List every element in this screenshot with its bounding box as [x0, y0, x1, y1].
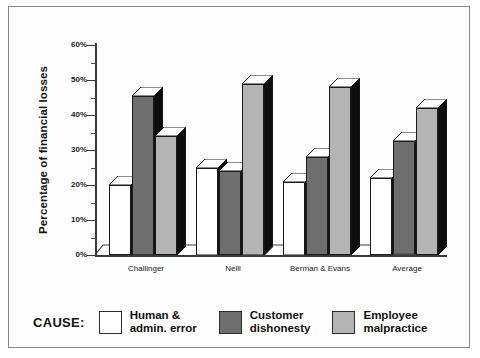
chart-page: Percentage of financial losses 0%10%20%3…	[0, 0, 480, 358]
bar	[242, 75, 273, 256]
legend-swatch	[99, 311, 122, 334]
legend-swatch	[332, 311, 355, 334]
legend-item: Customer dishonesty	[219, 309, 311, 335]
y-axis-minor-tick	[91, 133, 95, 134]
legend-title: CAUSE:	[33, 315, 85, 330]
y-axis-line	[95, 43, 97, 257]
bar	[329, 78, 360, 255]
bar	[416, 99, 447, 255]
chart-frame: Percentage of financial losses 0%10%20%3…	[8, 6, 470, 348]
plot-area: Percentage of financial losses 0%10%20%3…	[95, 43, 447, 257]
y-axis-tick-label: 50%	[43, 76, 87, 84]
x-axis-category-label: Average	[356, 265, 458, 273]
y-axis-tick-label: 60%	[43, 41, 87, 49]
legend-item: Human & admin. error	[99, 309, 197, 335]
y-axis-minor-tick	[91, 238, 95, 239]
y-axis-tick-label: 40%	[43, 111, 87, 119]
y-axis-tick	[87, 115, 95, 116]
legend-label: Employee malpractice	[363, 309, 427, 335]
y-axis-minor-tick	[91, 168, 95, 169]
y-axis-minor-tick	[91, 63, 95, 64]
y-axis-tick	[87, 220, 95, 221]
bar	[155, 127, 186, 255]
legend-swatch	[219, 311, 242, 334]
y-axis-tick	[87, 45, 95, 46]
y-axis-tick	[87, 80, 95, 81]
y-axis-tick-label: 20%	[43, 181, 87, 189]
y-axis-tick	[87, 255, 95, 256]
y-axis-tick-label: 30%	[43, 146, 87, 154]
y-axis-tick	[87, 150, 95, 151]
legend-item: Employee malpractice	[332, 309, 427, 335]
y-axis-minor-tick	[91, 98, 95, 99]
y-axis-tick-label: 0%	[43, 251, 87, 259]
legend: CAUSE: Human & admin. errorCustomer dish…	[33, 301, 463, 343]
y-axis-tick	[87, 185, 95, 186]
legend-label: Customer dishonesty	[250, 309, 311, 335]
legend-label: Human & admin. error	[130, 309, 197, 335]
legend-items: Human & admin. errorCustomer dishonestyE…	[99, 309, 450, 335]
y-axis-tick-label: 10%	[43, 216, 87, 224]
y-axis-minor-tick	[91, 203, 95, 204]
